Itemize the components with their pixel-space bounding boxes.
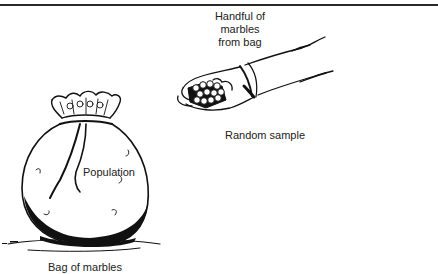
handful-label: Handful of marbles from bag — [200, 10, 280, 49]
marbles-in-hand — [188, 81, 226, 108]
bag-of-marbles-label: Bag of marbles — [40, 261, 130, 274]
population-label: Population — [76, 166, 142, 179]
handful-line-3: from bag — [200, 36, 280, 49]
random-sample-label: Random sample — [220, 129, 310, 142]
handful-line-1: Handful of — [200, 10, 280, 23]
handful-line-2: marbles — [200, 23, 280, 36]
